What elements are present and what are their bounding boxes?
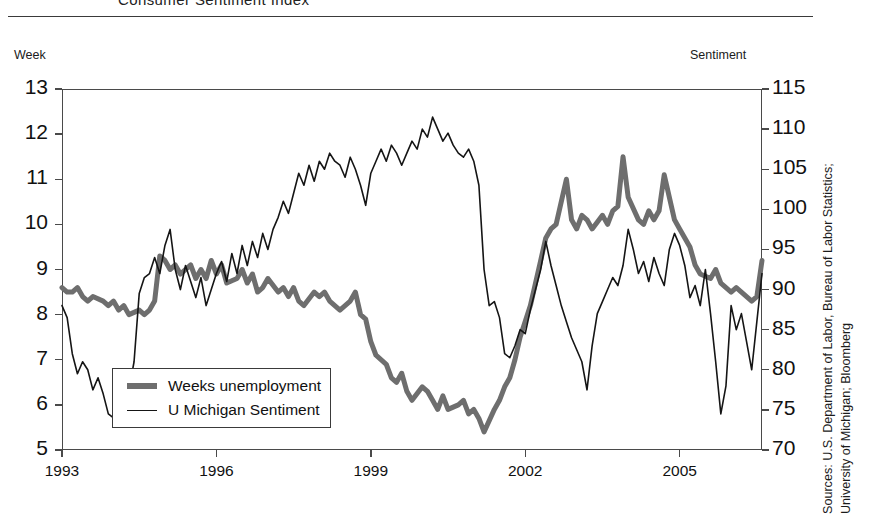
legend-item-u-michigan-sentiment: U Michigan Sentiment [127, 401, 320, 419]
left-axis-tick [55, 224, 62, 225]
left-axis-tick [55, 314, 62, 315]
left-axis-tick-label: 6 [4, 391, 48, 415]
left-axis-tick-label: 12 [4, 120, 48, 144]
left-axis-tick-label: 11 [4, 165, 48, 189]
x-axis-tick-label: 2002 [490, 462, 560, 480]
left-axis-tick-label: 13 [4, 75, 48, 99]
right-axis-tick [762, 209, 769, 210]
x-axis-tick [679, 450, 680, 457]
x-axis-tick [525, 450, 526, 457]
left-axis-caption: Week [14, 48, 46, 62]
left-axis-tick-label: 5 [4, 436, 48, 460]
legend-item-weeks-unemployment: Weeks unemployment [127, 377, 321, 395]
x-axis-tick [216, 450, 217, 457]
chart-root: Consumer Sentiment Index Week Sentiment … [0, 0, 871, 514]
left-axis-tick-label: 9 [4, 256, 48, 280]
legend-label: U Michigan Sentiment [168, 401, 320, 419]
x-axis-tick [370, 450, 371, 457]
legend-label: Weeks unemployment [168, 377, 321, 395]
legend-swatch-thin-icon [127, 410, 157, 411]
x-axis-tick-label: 1996 [181, 462, 251, 480]
right-axis-tick [762, 249, 769, 250]
right-axis-caption: Sentiment [690, 48, 746, 62]
left-axis-tick-label: 10 [4, 210, 48, 234]
right-axis-tick [762, 169, 769, 170]
left-axis-tick [55, 133, 62, 134]
right-axis-tick [762, 409, 769, 410]
left-axis-tick [55, 88, 62, 89]
left-axis-tick-label: 8 [4, 301, 48, 325]
left-axis-tick-label: 7 [4, 346, 48, 370]
right-axis-tick [762, 128, 769, 129]
legend: Weeks unemployment U Michigan Sentiment [112, 368, 331, 428]
x-axis-tick [61, 450, 62, 457]
right-axis-tick [762, 289, 769, 290]
x-axis-tick-label: 2005 [645, 462, 715, 480]
right-axis-tick [762, 88, 769, 89]
title-divider [8, 16, 813, 17]
left-axis-tick [55, 359, 62, 360]
left-axis-tick [55, 179, 62, 180]
page-title: Consumer Sentiment Index [118, 0, 309, 8]
x-axis-tick-label: 1993 [27, 462, 97, 480]
source-note: Sources: U.S. Department of Labor, Burea… [817, 0, 871, 514]
right-axis-tick [762, 369, 769, 370]
left-axis-tick [55, 269, 62, 270]
legend-swatch-thick-icon [127, 383, 157, 389]
right-axis-tick [762, 449, 769, 450]
left-axis-tick [55, 404, 62, 405]
right-axis-tick [762, 329, 769, 330]
x-axis-tick-label: 1999 [336, 462, 406, 480]
